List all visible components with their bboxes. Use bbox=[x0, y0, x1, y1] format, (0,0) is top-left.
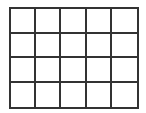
grid-cell bbox=[112, 58, 137, 83]
grid-cell bbox=[112, 34, 137, 59]
grid-cell bbox=[61, 83, 86, 108]
grid-cell bbox=[11, 58, 36, 83]
grid-cell bbox=[36, 34, 61, 59]
grid-cell bbox=[36, 9, 61, 34]
grid-cell bbox=[36, 83, 61, 108]
grid-cell bbox=[87, 83, 112, 108]
grid-cell bbox=[61, 34, 86, 59]
grid-cell bbox=[87, 34, 112, 59]
grid-cell bbox=[11, 9, 36, 34]
grid-cell bbox=[87, 58, 112, 83]
grid-cell bbox=[87, 9, 112, 34]
grid-cell bbox=[36, 58, 61, 83]
grid-cell bbox=[11, 83, 36, 108]
empty-grid bbox=[9, 7, 139, 109]
grid-cell bbox=[112, 9, 137, 34]
grid-cell bbox=[112, 83, 137, 108]
grid-cell bbox=[11, 34, 36, 59]
grid-cell bbox=[61, 58, 86, 83]
grid-cell bbox=[61, 9, 86, 34]
